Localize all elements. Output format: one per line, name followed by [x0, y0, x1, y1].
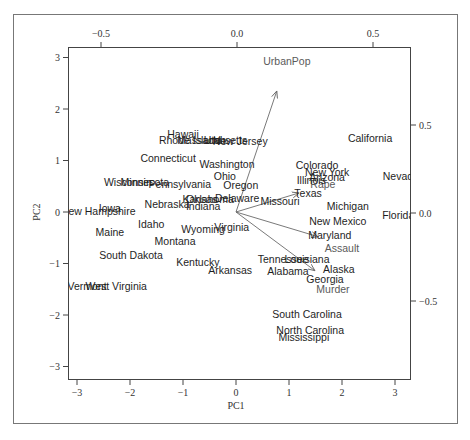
state-label: Arkansas [208, 264, 252, 276]
x-tick-label: 3 [393, 387, 398, 398]
top-tick-label: 0.0 [231, 28, 244, 39]
state-label: Connecticut [140, 152, 196, 164]
y-tick-label: −1 [49, 258, 60, 269]
right-axis: 0.50.0−0.5 [411, 120, 437, 307]
state-label: Oregon [223, 179, 258, 191]
state-label: Nevada [383, 170, 419, 182]
state-label: Florida [382, 209, 414, 221]
x-tick-label: −3 [72, 387, 83, 398]
y-tick-label: 2 [55, 104, 60, 115]
x-tick-label: −1 [178, 387, 189, 398]
y-tick-label: 1 [55, 155, 60, 166]
left-axis: −3−2−10123 [49, 52, 68, 372]
state-label: Delaware [215, 192, 260, 204]
x-axis-title: PC1 [227, 400, 244, 411]
state-label: South Dakota [99, 249, 163, 261]
state-label: Maryland [308, 229, 351, 241]
variable-label: Assault [325, 242, 360, 254]
state-label: South Carolina [272, 308, 342, 320]
state-label: California [348, 132, 393, 144]
right-tick-label: 0.5 [419, 120, 432, 131]
variable-label: UrbanPop [263, 55, 310, 67]
y-axis-title: PC2 [31, 203, 42, 220]
state-label: Washington [199, 158, 254, 170]
state-label: Alabama [267, 265, 309, 277]
x-tick-label: −2 [125, 387, 136, 398]
state-label: Indiana [186, 200, 221, 212]
state-label: Montana [155, 235, 196, 247]
state-label: Illinois [297, 174, 326, 186]
state-label: Missouri [260, 195, 299, 207]
x-tick-label: 2 [340, 387, 345, 398]
right-tick-label: −0.5 [419, 296, 437, 307]
state-label: Michigan [327, 200, 369, 212]
state-label: Maine [96, 226, 125, 238]
y-tick-label: −3 [49, 361, 60, 372]
y-tick-label: 3 [55, 52, 60, 63]
y-tick-label: 0 [55, 207, 60, 218]
state-label: Georgia [306, 273, 344, 285]
bottom-axis: −3−2−10123 [72, 380, 398, 398]
state-label: Idaho [138, 218, 164, 230]
state-label: New Jersey [213, 135, 269, 147]
state-label: Pennsylvania [149, 178, 212, 190]
y-tick-label: −2 [49, 310, 60, 321]
state-label: Nebraska [145, 198, 190, 210]
x-tick-label: 1 [287, 387, 292, 398]
top-tick-label: 0.5 [367, 28, 380, 39]
state-label: New Hampshire [61, 205, 136, 217]
biplot-figure: −3−2−10123 −3−2−10123 −0.50.00.5 0.50.0−… [0, 0, 470, 440]
state-label: Wyoming [181, 223, 225, 235]
right-tick-label: 0.0 [419, 208, 432, 219]
state-label: Mississippi [278, 331, 329, 343]
state-label: West Virginia [85, 280, 147, 292]
state-label: New Mexico [309, 215, 366, 227]
top-axis: −0.50.00.5 [92, 28, 379, 47]
x-tick-label: 0 [234, 387, 239, 398]
top-tick-label: −0.5 [92, 28, 110, 39]
